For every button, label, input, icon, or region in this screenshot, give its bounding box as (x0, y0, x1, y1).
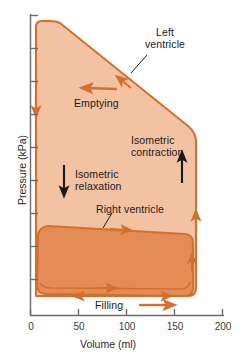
rv-outline (37, 226, 193, 296)
emptying-label: Emptying (74, 97, 119, 109)
isometric-contraction-label: Isometric contraction (131, 134, 183, 158)
isometric-relaxation-label: Isometric relaxation (75, 168, 122, 192)
x-axis-title: Volume (ml) (80, 338, 136, 350)
left-ventricle-label: Left ventricle (133, 26, 197, 50)
right-ventricle-label: Right ventricle (96, 203, 164, 215)
x-tick-100: 100 (112, 321, 142, 332)
left-ventricle-leader (131, 55, 147, 73)
figure-container: Left ventricle Emptying Isometric contra… (0, 0, 242, 361)
x-tick-200: 200 (208, 321, 238, 332)
x-tick-50: 50 (64, 321, 94, 332)
x-tick-0: 0 (16, 321, 46, 332)
x-tick-150: 150 (160, 321, 190, 332)
right-ventricle-loop (37, 226, 193, 296)
rv-top-arrow (110, 229, 127, 230)
emptying-arrow (86, 88, 117, 89)
y-axis-title: Pressure (kPa) (16, 135, 28, 205)
filling-label: Filling (95, 299, 123, 311)
